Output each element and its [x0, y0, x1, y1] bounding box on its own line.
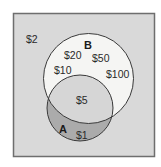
set-a-label: A	[59, 123, 67, 135]
b-only-value: $50	[92, 52, 110, 64]
b-only-value: $100	[106, 68, 130, 80]
a-only-value: $1	[76, 129, 88, 141]
venn-diagram: B A $2 $20 $50 $10 $100 $5 $1	[0, 0, 161, 167]
b-only-value: $10	[54, 64, 72, 76]
b-only-value: $20	[64, 49, 82, 61]
intersection-value: $5	[76, 94, 88, 106]
set-b-label: B	[84, 39, 92, 51]
outside-value: $2	[26, 33, 38, 45]
